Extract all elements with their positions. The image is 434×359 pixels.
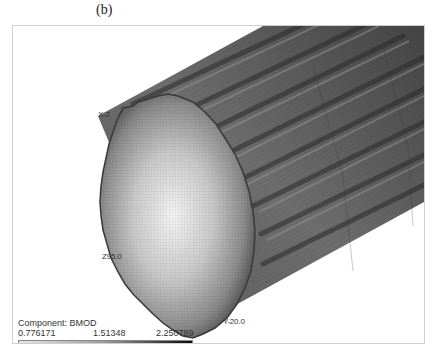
render-viewport-frame: X-2 Z95.0 Y-20.0 Component: BMOD 0.77617… xyxy=(12,25,425,344)
axis-label-y: Y-20.0 xyxy=(223,317,245,326)
legend-title: Component: BMOD xyxy=(18,319,198,328)
legend-gradient-bar xyxy=(18,340,193,344)
legend-min-value: 0.776171 xyxy=(18,328,56,338)
legend-max-value: 2.250789 xyxy=(156,328,194,338)
cylinder-render[interactable] xyxy=(13,26,425,344)
figure-caption: (b) xyxy=(96,2,112,18)
color-legend: Component: BMOD 0.776171 1.51348 2.25078… xyxy=(18,319,198,344)
axis-label-z: Z95.0 xyxy=(102,252,121,261)
axis-label-x: X-2 xyxy=(98,110,110,119)
legend-ticks: 0.776171 1.51348 2.250789 xyxy=(18,328,198,338)
legend-mid-value: 1.51348 xyxy=(93,328,126,338)
